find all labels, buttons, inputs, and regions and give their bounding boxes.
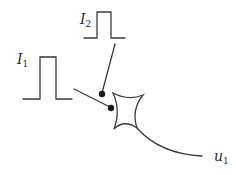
output-axon	[137, 128, 202, 156]
axon-i1	[74, 89, 110, 107]
axon-i2	[102, 44, 115, 93]
synapse-i1	[74, 89, 114, 111]
label-i1: I1	[16, 51, 28, 69]
input-i2: I2	[79, 11, 125, 38]
synapse-i2	[99, 44, 115, 97]
synapse-dot-i2	[99, 91, 105, 97]
synapse-dot-i1	[108, 105, 114, 111]
pulse-i1	[23, 57, 72, 99]
neuron-body	[113, 93, 143, 129]
label-i2: I2	[79, 11, 91, 29]
neuron-diagram: I1 I2 u1	[0, 0, 236, 175]
label-u1: u1	[214, 148, 229, 166]
input-i1: I1	[16, 51, 72, 99]
